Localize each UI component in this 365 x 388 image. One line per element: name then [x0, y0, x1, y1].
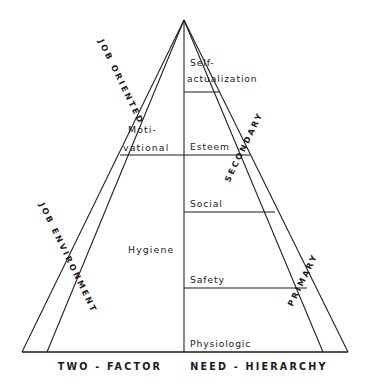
label-self-actualization-line1: Self- [190, 57, 215, 68]
outer-left-edge [22, 20, 184, 352]
band-label-job-environment: JOB ENVIRONMENT [37, 200, 100, 315]
label-hygiene: Hygiene [128, 244, 174, 255]
caption-two-factor: TWO - FACTOR [58, 361, 162, 372]
band-label-job-oriented: JOB ORIENTED [96, 37, 146, 126]
label-motivational-line1: Moti- [128, 124, 157, 135]
pyramid-diagram: Moti- vational Hygiene Self- actualizati… [0, 0, 365, 388]
label-motivational-line2: vational [123, 142, 169, 153]
outer-right-edge [184, 20, 348, 352]
label-self-actualization-line2: actualization [187, 73, 258, 84]
caption-need-hierarchy: NEED - HIERARCHY [190, 361, 327, 372]
inner-right-band-edge [184, 20, 323, 352]
label-esteem: Esteem [190, 141, 230, 152]
label-safety: Safety [190, 274, 225, 285]
label-physiologic: Physiologic [190, 338, 251, 349]
pyramid-svg-canvas: Moti- vational Hygiene Self- actualizati… [0, 0, 365, 388]
label-social: Social [190, 198, 223, 209]
